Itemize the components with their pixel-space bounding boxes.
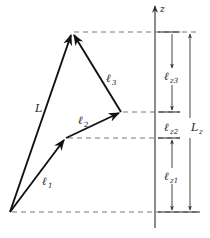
label-l2: ℓ 2 xyxy=(78,114,89,129)
label-L: L xyxy=(34,102,42,115)
label-lz1: ℓ z1 xyxy=(164,170,178,185)
svg-text:L: L xyxy=(34,102,42,115)
svg-text:z2: z2 xyxy=(169,128,179,136)
vector-l2 xyxy=(66,113,119,138)
label-lz2: ℓ z2 xyxy=(164,121,179,136)
svg-text:ℓ: ℓ xyxy=(164,121,169,134)
svg-text:1: 1 xyxy=(48,182,52,190)
svg-text:3: 3 xyxy=(112,79,117,87)
vector-l1 xyxy=(10,140,64,212)
svg-text:L: L xyxy=(190,121,198,134)
label-l1: ℓ 1 xyxy=(42,175,52,190)
svg-text:z: z xyxy=(198,128,203,136)
z-axis-label: z xyxy=(159,4,165,14)
svg-text:ℓ: ℓ xyxy=(164,170,169,183)
svg-text:z1: z1 xyxy=(169,177,178,185)
svg-text:z3: z3 xyxy=(169,77,179,85)
vector-L xyxy=(10,35,71,212)
svg-text:ℓ: ℓ xyxy=(42,175,47,188)
label-l3: ℓ 3 xyxy=(106,72,117,87)
vector-l3 xyxy=(74,35,121,112)
svg-text:ℓ: ℓ xyxy=(164,70,169,83)
vector-diagram: z L ℓ 1 ℓ 2 ℓ 3 ℓ z3 ℓ z2 ℓ z1 xyxy=(0,0,210,238)
label-Lz: L z xyxy=(190,121,203,136)
label-lz3: ℓ z3 xyxy=(164,70,179,85)
svg-text:ℓ: ℓ xyxy=(78,114,83,127)
svg-text:ℓ: ℓ xyxy=(106,72,111,85)
svg-text:2: 2 xyxy=(83,121,89,129)
